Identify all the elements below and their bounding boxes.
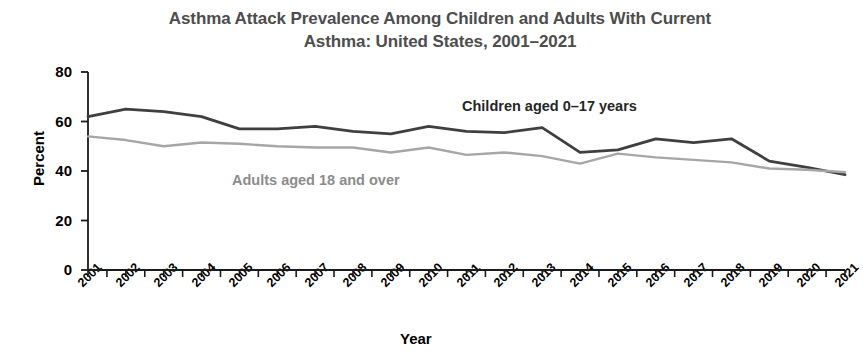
series-label-children: Children aged 0–17 years <box>462 98 637 114</box>
plot-area: Percent Year 020406080 20012002200320042… <box>0 0 863 357</box>
chart-canvas <box>0 0 863 357</box>
asthma-prevalence-chart: Asthma Attack Prevalence Among Children … <box>0 0 863 357</box>
series-label-adults: Adults aged 18 and over <box>232 172 400 188</box>
series-line-adults <box>88 136 845 172</box>
chart-series <box>88 109 845 175</box>
footer-cropped-text <box>0 344 863 357</box>
